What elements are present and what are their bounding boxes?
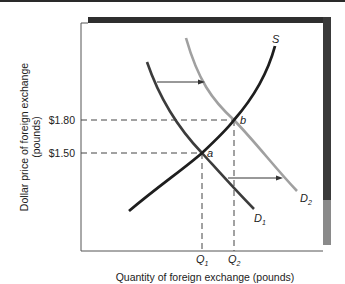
x-tick-q1: Q1 [196,253,209,267]
x-tick-q2: Q2 [228,253,241,267]
y-axis-title: Dollar price of foreign exchange (pounds… [18,63,42,211]
label-s: S [272,33,280,45]
y-axis-title-line1: Dollar price of foreign exchange [18,63,30,211]
demand-curve-d1 [147,62,254,209]
chart-canvas: S D1 D2 a b $1.80 $1.50 Q1 Q2 Quantity o… [0,0,345,284]
point-b-label: b [240,114,246,126]
y-tick-150: $1.50 [49,147,75,159]
label-d1: D1 [254,212,266,226]
y-tick-180: $1.80 [49,114,75,126]
frame-shadow-fade [323,200,331,245]
frame-shadow-top [88,17,331,23]
y-axis-title-line2: (pounds) [30,116,42,157]
label-d2: D2 [300,192,312,206]
point-a-label: a [207,147,213,159]
x-axis-title: Quantity of foreign exchange (pounds) [116,271,295,283]
